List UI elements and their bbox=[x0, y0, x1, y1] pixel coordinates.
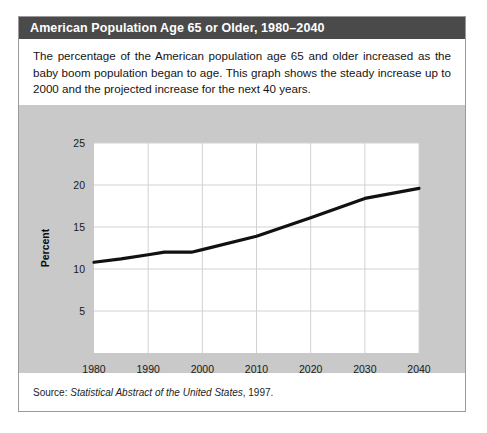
y-tick-label: 25 bbox=[73, 137, 85, 149]
y-tick-label: 15 bbox=[73, 221, 85, 233]
figure-card: American Population Age 65 or Older, 198… bbox=[18, 16, 466, 412]
figure-title-bar: American Population Age 65 or Older, 198… bbox=[19, 17, 465, 39]
source-note: Source: Statistical Abstract of the Unit… bbox=[19, 373, 465, 412]
y-tick-label: 10 bbox=[73, 263, 85, 275]
x-tick-label: 2030 bbox=[353, 363, 377, 373]
x-tick-label: 2040 bbox=[407, 363, 431, 373]
y-tick-label: 20 bbox=[73, 179, 85, 191]
x-tick-label: 1990 bbox=[136, 363, 160, 373]
y-axis-tick-labels: 510152025 bbox=[73, 137, 85, 317]
figure-title: American Population Age 65 or Older, 198… bbox=[19, 21, 325, 35]
source-year: , 1997. bbox=[243, 387, 274, 398]
x-tick-label: 2000 bbox=[191, 363, 215, 373]
figure-description: The percentage of the American populatio… bbox=[19, 39, 465, 105]
screenshot-root: American Population Age 65 or Older, 198… bbox=[0, 0, 487, 433]
source-label: Source: bbox=[33, 387, 70, 398]
chart-panel: 510152025 1980199020002010202020302040 P… bbox=[19, 105, 465, 373]
y-tick-label: 5 bbox=[79, 305, 85, 317]
source-publication: Statistical Abstract of the United State… bbox=[70, 387, 243, 398]
x-tick-label: 1980 bbox=[82, 363, 106, 373]
y-axis-title: Percent bbox=[39, 228, 51, 267]
x-tick-label: 2010 bbox=[245, 363, 269, 373]
x-tick-label: 2020 bbox=[299, 363, 323, 373]
line-chart: 510152025 1980199020002010202020302040 P… bbox=[19, 105, 467, 373]
x-axis-tick-labels: 1980199020002010202020302040 bbox=[82, 363, 431, 373]
